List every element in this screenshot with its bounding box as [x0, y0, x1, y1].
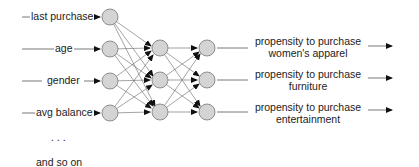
- output-label-furniture: propensity to purchase furniture: [248, 68, 368, 92]
- input-label-avg-balance: avg balance: [35, 107, 94, 118]
- and-so-on-label: and so on: [35, 157, 83, 167]
- output-label-entertainment: propensity to purchase entertainment: [248, 101, 368, 125]
- input-label-gender: gender: [46, 75, 81, 86]
- ellipsis: . . .: [50, 132, 67, 143]
- input-label-last-purchase: last purchase: [30, 11, 94, 22]
- output-label-womens-apparel: propensity to purchase women's apparel: [248, 35, 368, 59]
- input-label-age: age: [54, 43, 74, 54]
- neural-network-diagram: last purchase age gender avg balance . .…: [0, 0, 419, 167]
